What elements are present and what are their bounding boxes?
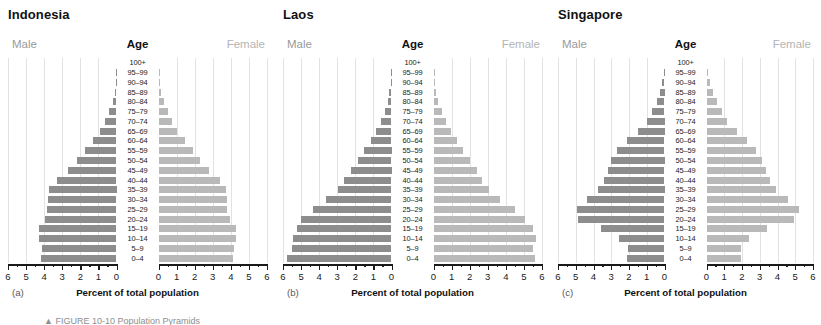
- age-group-label: 85–89: [665, 88, 707, 97]
- age-group-label: 95–99: [665, 68, 707, 77]
- axis-tick-major: [506, 264, 507, 270]
- female-bar: [434, 79, 435, 86]
- pyramid-row: 0–4: [550, 253, 821, 263]
- age-group-label: 35–39: [117, 185, 159, 194]
- male-bar: [351, 167, 392, 174]
- pyramid-row: 70–74: [550, 117, 821, 127]
- male-bar: [627, 255, 664, 262]
- male-bar: [338, 186, 391, 193]
- male-bar: [301, 216, 391, 223]
- axis-tick-label: 3: [609, 271, 614, 282]
- age-group-label: 25–29: [665, 205, 707, 214]
- pyramid-row: 100+: [275, 58, 550, 68]
- axis-tick-minor: [168, 264, 169, 267]
- pyramid-row: 65–69: [275, 126, 550, 136]
- male-bar: [638, 128, 665, 135]
- female-bar: [434, 98, 439, 105]
- x-axis-female: 0123456: [434, 264, 543, 282]
- axis-tick-minor: [443, 264, 444, 267]
- age-group-label: 5–9: [665, 244, 707, 253]
- male-legend-label: Male: [12, 38, 37, 50]
- male-bar: [577, 206, 665, 213]
- axis-tick-major: [778, 264, 779, 270]
- axis-tick-label: 2: [78, 271, 83, 282]
- axis-tick-minor: [620, 264, 621, 267]
- axis-tick-label: 3: [210, 271, 215, 282]
- female-bar: [707, 167, 766, 174]
- axis-tick-label: 3: [335, 271, 340, 282]
- axis-tick-label: 1: [174, 271, 179, 282]
- axis-tick-label: 0: [114, 271, 119, 282]
- age-group-label: 100+: [665, 58, 707, 67]
- axis-tick-major: [355, 264, 356, 270]
- age-group-label: 100+: [392, 58, 434, 67]
- pyramid-row: 65–69: [550, 126, 821, 136]
- pyramid-row: 40–44: [550, 175, 821, 185]
- x-axis-title: Percent of total population: [351, 287, 474, 298]
- age-group-label: 20–24: [392, 215, 434, 224]
- male-bar: [105, 118, 116, 125]
- male-bar: [41, 255, 116, 262]
- pyramid-row: 80–84: [550, 97, 821, 107]
- axis-tick-label: 6: [555, 271, 560, 282]
- pyramid-panel-indonesia: IndonesiaMaleAgeFemale100+95–9990–9485–8…: [0, 0, 275, 325]
- axis-tick-minor: [222, 264, 223, 267]
- female-legend-label: Female: [502, 38, 540, 50]
- pyramid-row: 50–54: [0, 156, 275, 166]
- age-axis-label: Age: [127, 38, 149, 50]
- male-bar: [313, 206, 392, 213]
- age-group-label: 20–24: [665, 215, 707, 224]
- axis-tick-major: [283, 264, 284, 270]
- female-bar: [707, 255, 742, 262]
- pyramid-row: 90–94: [0, 78, 275, 88]
- female-bar: [434, 177, 483, 184]
- female-bar: [159, 157, 201, 164]
- axis-tick-major: [8, 264, 9, 270]
- axis-tick-major: [337, 264, 338, 270]
- panel-letter: (b): [287, 287, 299, 298]
- axis-tick-major: [813, 264, 814, 270]
- pyramid-row: 75–79: [0, 107, 275, 117]
- age-group-label: 60–64: [392, 136, 434, 145]
- axis-tick-major: [542, 264, 543, 270]
- age-group-label: 55–59: [665, 146, 707, 155]
- axis-tick-label: 3: [60, 271, 65, 282]
- female-bar: [707, 206, 799, 213]
- age-group-label: 25–29: [117, 205, 159, 214]
- axis-tick-major: [647, 264, 648, 270]
- pyramid-row: 5–9: [275, 243, 550, 253]
- axis-tick-label: 4: [317, 271, 322, 282]
- age-group-label: 0–4: [117, 254, 159, 263]
- female-bar: [707, 235, 750, 242]
- age-group-label: 30–34: [392, 195, 434, 204]
- male-bar: [100, 128, 116, 135]
- pyramid-row: 30–34: [275, 195, 550, 205]
- pyramid-row: 60–64: [275, 136, 550, 146]
- male-bar: [292, 245, 391, 252]
- age-group-label: 0–4: [665, 254, 707, 263]
- age-group-label: 75–79: [392, 107, 434, 116]
- male-bar: [617, 147, 664, 154]
- female-bar: [434, 196, 501, 203]
- pyramid-row: 60–64: [550, 136, 821, 146]
- age-group-label: 65–69: [665, 127, 707, 136]
- pyramid-row: 10–14: [275, 234, 550, 244]
- pyramid-row: 20–24: [0, 214, 275, 224]
- female-bar: [159, 147, 193, 154]
- pyramid-row: 45–49: [550, 165, 821, 175]
- axis-tick-label: 6: [5, 271, 10, 282]
- age-axis-label: Age: [675, 38, 697, 50]
- pyramid-row: 100+: [0, 58, 275, 68]
- axis-tick-label: 0: [662, 271, 667, 282]
- axis-tick-major: [267, 264, 268, 270]
- female-bar: [434, 235, 536, 242]
- age-group-label: 75–79: [665, 107, 707, 116]
- axis-tick-label: 1: [449, 271, 454, 282]
- age-group-label: 80–84: [665, 97, 707, 106]
- x-axis-male: 0123456: [8, 264, 117, 282]
- axis-tick-label: 1: [722, 271, 727, 282]
- axis-tick-major: [62, 264, 63, 270]
- panel-letter: (a): [12, 287, 24, 298]
- pyramid-row: 95–99: [0, 68, 275, 78]
- axis-tick-major: [26, 264, 27, 270]
